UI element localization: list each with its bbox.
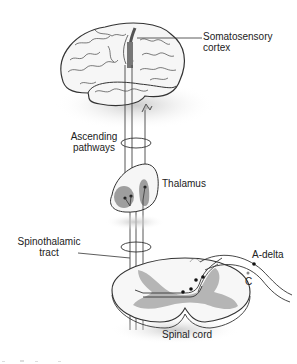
c-fiber-dot [247,272,250,275]
thalamus-label: Thalamus [162,178,206,189]
spinal-cord-label: Spinal cord [162,329,212,340]
spinothalamic-tract-label: Spinothalamic tract [14,236,84,258]
label-line: tract [14,247,84,258]
ascending-pathways-ring [121,138,151,148]
tract-leader-line [78,253,130,258]
faint-caption-marks [2,360,61,362]
a-delta-dot [252,262,256,266]
label-line: Ascending [68,131,120,142]
label-line: cortex [203,42,272,53]
somatosensory-cortex-label: Somatosensory cortex [203,31,272,53]
c-fiber-label: C [245,276,252,287]
label-line: pathways [68,142,120,153]
a-delta-label: A-delta [252,249,284,260]
label-line: Spinothalamic [14,236,84,247]
ascending-pathways-label: Ascending pathways [68,131,120,153]
thalamus-icon [105,164,165,230]
label-line: Somatosensory [203,31,272,42]
pain-pathway-diagram: Somatosensory cortex Ascending pathways … [0,0,297,364]
